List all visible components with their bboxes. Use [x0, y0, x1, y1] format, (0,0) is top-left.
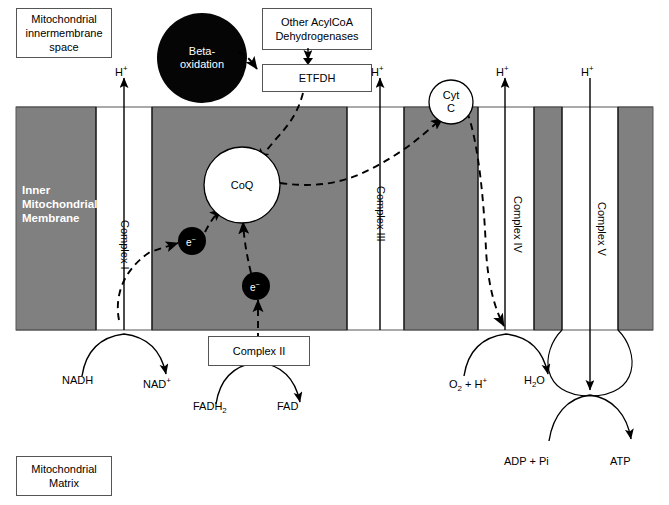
atp-text: ATP — [610, 455, 631, 467]
nadh-label: NADH — [62, 374, 93, 387]
atp-label: ATP — [610, 455, 631, 468]
nadplus-text: NAD — [143, 378, 166, 390]
o2-tail: + H — [462, 378, 482, 390]
complex-i-label: Complex I — [119, 220, 131, 270]
electron-1-charge: − — [192, 235, 196, 244]
intermembrane-line-2: innermembrane — [25, 26, 102, 40]
cytc-label: Cyt C — [421, 89, 481, 115]
fadh2-text: FADH — [193, 400, 222, 412]
complex-iii-label: Complex III — [375, 186, 387, 242]
h-iv-charge: + — [504, 64, 509, 73]
mitochondrial-matrix-label: Mitochondrial Matrix — [16, 456, 112, 496]
electron-label-1: e− — [186, 235, 196, 248]
fad-text: FAD — [277, 400, 298, 412]
acylcoa-line-1: Other AcylCoA — [281, 15, 353, 29]
complex-ii-box: Complex II — [208, 336, 310, 366]
h2o-tail: O — [536, 374, 545, 386]
etc-diagram: Mitochondrial innermembrane space Mitoch… — [0, 0, 669, 505]
etfdh-box: ETFDH — [262, 64, 372, 92]
h-v-charge: + — [589, 64, 594, 73]
beta-oxidation-line-2: oxidation — [172, 58, 232, 71]
proton-label-complex-iv: H+ — [496, 62, 509, 79]
matrix-line-1: Mitochondrial — [31, 462, 96, 476]
beta-oxidation-label: Beta- oxidation — [172, 45, 232, 71]
oxygen-label: O2 + H+ — [449, 374, 487, 395]
adp-text: ADP + Pi — [504, 455, 549, 467]
nadplus-charge: + — [166, 376, 171, 385]
inner-membrane-label: Inner Mitochondrial Membrane — [22, 183, 97, 225]
arrow-fadh2-fad — [216, 362, 300, 404]
intermembrane-line-1: Mitochondrial — [31, 12, 96, 26]
fadh2-label: FADH2 — [193, 400, 227, 417]
fad-label: FAD — [277, 400, 298, 413]
arrow-o2-h2o — [464, 334, 548, 376]
other-acylcoa-dehydrogenases-box: Other AcylCoA Dehydrogenases — [262, 8, 372, 50]
matrix-line-2: Matrix — [49, 476, 79, 490]
acylcoa-line-2: Dehydrogenases — [275, 29, 358, 43]
intermembrane-line-3: space — [49, 40, 78, 54]
h2o-text: H — [524, 374, 532, 386]
complex-iv-text: Complex IV — [512, 196, 524, 253]
o2-charge: + — [482, 376, 487, 385]
o2-text: O — [449, 378, 458, 390]
inner-membrane-line-2: Mitochondrial — [22, 197, 97, 211]
membrane-bands — [16, 107, 653, 330]
etfdh-label: ETFDH — [299, 71, 336, 85]
electron-label-2: e− — [250, 280, 260, 293]
h-iii-charge: + — [379, 64, 384, 73]
proton-label-complex-iii: H+ — [371, 62, 384, 79]
cytc-line-2: C — [421, 102, 481, 115]
inner-membrane-line-3: Membrane — [22, 211, 97, 225]
adp-pi-label: ADP + Pi — [504, 455, 549, 468]
h-iv-text: H — [496, 66, 504, 78]
nadplus-label: NAD+ — [143, 374, 171, 391]
h-i-charge: + — [123, 64, 128, 73]
complex-iii-text: Complex III — [375, 186, 387, 242]
h-iii-text: H — [371, 66, 379, 78]
inner-membrane-line-1: Inner — [22, 183, 97, 197]
intermembrane-space-label: Mitochondrial innermembrane space — [16, 8, 112, 58]
fadh2-sub: 2 — [222, 406, 226, 415]
complex-iv-label: Complex IV — [512, 196, 524, 253]
complex-i-text: Complex I — [119, 220, 131, 270]
proton-label-complex-v: H+ — [581, 62, 594, 79]
h-v-text: H — [581, 66, 589, 78]
cytc-line-1: Cyt — [421, 89, 481, 102]
coq-text: CoQ — [231, 179, 254, 191]
complex-v-label: Complex V — [596, 202, 608, 256]
complex-ii-label: Complex II — [233, 344, 286, 358]
water-label: H2O — [524, 374, 545, 391]
complex-v-text: Complex V — [596, 202, 608, 256]
h-i-text: H — [115, 66, 123, 78]
coq-label: CoQ — [212, 179, 272, 192]
beta-oxidation-line-1: Beta- — [172, 45, 232, 58]
arrow-adp-atp — [549, 395, 631, 441]
electron-2-charge: − — [256, 280, 260, 289]
nadh-text: NADH — [62, 374, 93, 386]
proton-label-complex-i: H+ — [115, 62, 128, 79]
arrow-nadh-nadplus — [82, 334, 166, 376]
